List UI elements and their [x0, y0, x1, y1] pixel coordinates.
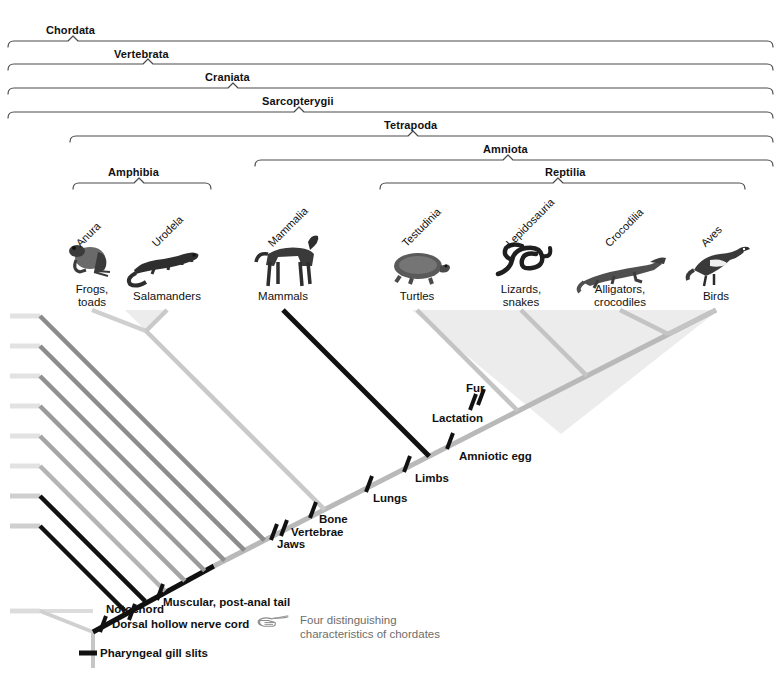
- frog-eye: [72, 246, 76, 250]
- bracket-amphibia: [73, 178, 211, 189]
- clade-label-chordata: Chordata: [46, 24, 95, 36]
- char-mark-limbs: [404, 456, 410, 472]
- bracket-chordata: [8, 36, 773, 47]
- mammalia-branch: [283, 310, 429, 456]
- bird-silhouette: [688, 247, 750, 286]
- character-label-dorsal-hollow-nerve-cord: Dorsal hollow nerve cord: [112, 618, 249, 630]
- taxon-common-line1: Alligators,: [594, 283, 646, 296]
- outgroup-branch-3: [40, 376, 225, 561]
- taxon-common-testudinia: Turtles: [400, 290, 435, 303]
- taxon-common-lepidosauria: Lizards,snakes: [501, 283, 541, 309]
- character-label-vertebrae: Vertebrae: [291, 526, 343, 538]
- salamander-body: [134, 253, 198, 275]
- bird-legs: [704, 274, 714, 286]
- branch-stubs: [10, 316, 40, 611]
- chordate-note: Four distinguishing characteristics of c…: [300, 613, 440, 641]
- taxon-common-line1: Turtles: [400, 290, 435, 303]
- mammal-silhouette: [256, 236, 318, 286]
- salamander-eye: [192, 253, 195, 256]
- clade-label-amniota: Amniota: [483, 143, 528, 155]
- char-mark-vertebrae: [281, 520, 287, 536]
- character-label-pharyngeal-gill-slits: Pharyngeal gill slits: [100, 647, 208, 659]
- turtle-silhouette: [394, 253, 450, 284]
- clade-label-craniata: Craniata: [205, 71, 250, 83]
- taxon-common-line1: Frogs,: [76, 283, 109, 296]
- snake-silhouette: [498, 244, 550, 274]
- croc-tail: [579, 282, 584, 292]
- salamander-tail: [129, 273, 146, 286]
- bird-tail: [688, 270, 694, 280]
- frog-foot: [94, 271, 110, 276]
- char-mark-lactation: [470, 394, 476, 410]
- taxon-common-line1: Birds: [703, 290, 729, 303]
- bird-eye: [743, 248, 745, 250]
- clade-label-reptilia: Reptilia: [545, 166, 586, 178]
- taxon-common-line2: snakes: [501, 296, 541, 309]
- taxon-common-urodela: Salamanders: [133, 290, 201, 303]
- bracket-sarcopterygii: [8, 107, 773, 118]
- taxon-common-line1: Mammals: [258, 290, 308, 303]
- bracket-vertebrata: [8, 59, 773, 70]
- bracket-craniata: [8, 83, 773, 94]
- turtle-eye: [445, 265, 448, 268]
- black-lineage-1: [40, 496, 145, 601]
- clade-label-sarcopterygii: Sarcopterygii: [262, 95, 334, 107]
- character-label-lactation: Lactation: [432, 412, 483, 424]
- taxon-common-crocodilia: Alligators,crocodiles: [594, 283, 646, 309]
- bracket-tetrapoda: [70, 131, 773, 142]
- bracket-reptilia: [380, 178, 745, 189]
- character-label-fur: Fur: [466, 382, 485, 394]
- snake-head: [542, 248, 550, 256]
- figure-canvas: ChordataVertebrataCraniataSarcopterygiiT…: [0, 0, 781, 690]
- bracket-amniota: [255, 155, 773, 166]
- taxon-common-anura: Frogs,toads: [76, 283, 109, 309]
- clade-label-vertebrata: Vertebrata: [114, 48, 169, 60]
- outgroup-branch-5: [40, 436, 185, 581]
- taxon-common-aves: Birds: [703, 290, 729, 303]
- amphibia-stem: [146, 331, 325, 510]
- mammal-tail: [256, 254, 268, 262]
- taxon-common-line1: Lizards,: [501, 283, 541, 296]
- char-mark-lungs: [366, 476, 372, 492]
- character-label-limbs: Limbs: [415, 472, 449, 484]
- character-label-bone: Bone: [319, 513, 348, 525]
- cladogram-svg: [0, 0, 781, 690]
- outgroup-branch-1: [40, 316, 264, 540]
- croc-jaw: [650, 258, 666, 265]
- taxon-common-line2: crocodiles: [594, 296, 646, 309]
- root-left-branch: [40, 611, 93, 632]
- outgroup-branch-2: [40, 346, 244, 550]
- character-label-lungs: Lungs: [373, 492, 408, 504]
- char-mark-dorsal-hollow-nerve-cord: [100, 616, 106, 632]
- clade-label-tetrapoda: Tetrapoda: [384, 119, 437, 131]
- character-label-amniotic-egg: Amniotic egg: [459, 450, 532, 462]
- character-label-notochord: Notochord: [106, 603, 164, 615]
- character-label-jaws: Jaws: [277, 538, 305, 550]
- pointing-hand-icon: [258, 616, 288, 626]
- taxon-common-mammalia: Mammals: [258, 290, 308, 303]
- salamander-silhouette: [129, 253, 199, 286]
- character-label-muscular-post-anal-tail: Muscular, post-anal tail: [163, 596, 290, 608]
- taxon-common-line1: Salamanders: [133, 290, 201, 303]
- clade-label-amphibia: Amphibia: [108, 166, 159, 178]
- turtle-shell-inner: [399, 256, 437, 274]
- frog-silhouette: [69, 245, 110, 276]
- note-line-2: characteristics of chordates: [300, 627, 440, 641]
- clade-shading: [125, 310, 716, 434]
- taxon-common-line2: toads: [76, 296, 109, 309]
- note-line-1: Four distinguishing: [300, 613, 440, 627]
- mammal-head: [308, 236, 318, 250]
